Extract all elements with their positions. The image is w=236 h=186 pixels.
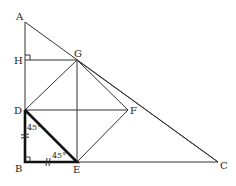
point-label-A: A: [15, 11, 24, 22]
angle-label-D: 45°: [27, 123, 41, 132]
point-label-D: D: [14, 105, 22, 116]
right-angle-H-icon: [25, 55, 30, 60]
tick-BD-1: [21, 134, 29, 135]
point-label-H: H: [14, 55, 23, 66]
point-label-F: F: [130, 105, 137, 116]
segment-FE: [77, 110, 128, 162]
point-label-C: C: [220, 160, 228, 171]
segment-GC: [77, 60, 218, 162]
tick-BE-2: [49, 158, 50, 166]
point-label-E: E: [73, 164, 80, 175]
angle-label-E: 45°: [52, 151, 66, 160]
diagram-canvas: 45° 45° A H G D F B E C: [0, 0, 236, 186]
point-label-G: G: [74, 48, 82, 59]
geometry-diagram: 45° 45° A H G D F B E C: [0, 0, 236, 186]
tick-BD-2: [21, 137, 29, 138]
point-label-B: B: [15, 163, 22, 174]
segment-GF: [77, 60, 128, 110]
triangle-DBE: [25, 110, 77, 162]
segment-DG: [25, 60, 77, 110]
tick-BE-1: [46, 158, 47, 166]
